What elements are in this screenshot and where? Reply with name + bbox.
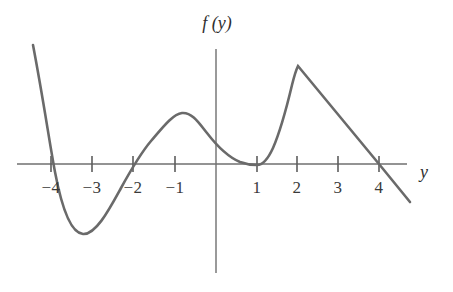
x-tick-label-3: 3 [334,178,343,198]
graph-figure: f (y) y −4 −3 −2 −1 1 2 3 4 [0,0,453,292]
y-axis-title: f (y) [202,13,231,34]
x-tick-label-2: 2 [293,178,302,198]
x-tick-label-minus-2: −2 [123,178,142,198]
x-axis-title: y [420,162,428,183]
x-tick-label-minus-4: −4 [41,178,60,198]
x-tick-label-minus-1: −1 [165,178,184,198]
function-curve [33,45,410,234]
x-tick-label-4: 4 [375,178,384,198]
function-plot [0,0,453,292]
x-tick-label-minus-3: −3 [82,178,101,198]
x-tick-label-1: 1 [253,178,262,198]
